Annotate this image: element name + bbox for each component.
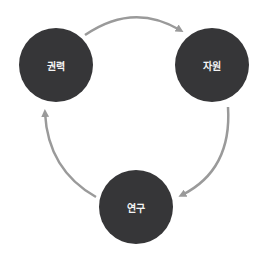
cycle-diagram: 권력 자원 연구 xyxy=(0,0,267,260)
node-power: 권력 xyxy=(19,28,93,102)
arrow-research-to-power xyxy=(45,113,96,197)
node-label: 연구 xyxy=(127,200,146,215)
node-research: 연구 xyxy=(99,170,173,244)
arrow-power-to-resources xyxy=(85,17,180,35)
arrow-resources-to-research xyxy=(182,107,228,195)
node-resources: 자원 xyxy=(175,28,249,102)
node-label: 자원 xyxy=(203,58,222,73)
node-label: 권력 xyxy=(47,58,66,73)
